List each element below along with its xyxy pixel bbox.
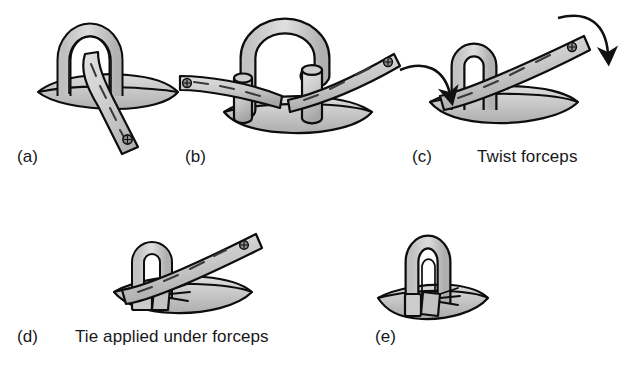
tie-band (405, 292, 440, 316)
forceps-arm-left (180, 76, 282, 108)
panel-label-a: (a) (17, 148, 38, 165)
caption-tie-applied: Tie applied under forceps (75, 328, 269, 345)
caption-twist-forceps: Twist forceps (477, 148, 578, 165)
panel-c (400, 10, 631, 158)
forceps-rivet (123, 135, 132, 144)
figure-canvas: (a) (b) (c) Twist forceps (d) Tie applie… (0, 0, 631, 380)
panel-b (176, 14, 406, 154)
forceps-rivet (568, 43, 577, 52)
panel-d (108, 222, 288, 327)
panel-label-d: (d) (17, 328, 38, 345)
forceps-rivet (384, 58, 393, 67)
panel-e (372, 232, 492, 332)
panel-label-b: (b) (185, 148, 206, 165)
forceps-rivet (240, 241, 249, 250)
panel-label-e: (e) (375, 328, 396, 345)
panel-label-c: (c) (412, 148, 432, 165)
panel-a (28, 14, 198, 154)
forceps-rivet (183, 79, 192, 88)
